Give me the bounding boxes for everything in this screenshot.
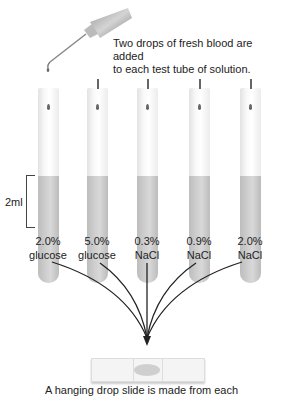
blood-drop-icon (47, 104, 50, 110)
concentration: 0.3% (122, 234, 172, 248)
concentration: 0.9% (174, 234, 224, 248)
hanging-drop-slide (91, 358, 205, 382)
blood-drop-icon (96, 104, 99, 110)
volume-bracket (26, 175, 35, 228)
tube-label-1: 2.0% glucose (23, 234, 73, 262)
tube-label-2: 5.0% glucose (72, 234, 122, 262)
blood-sample-spot (134, 364, 160, 376)
volume-label: 2ml (5, 196, 23, 208)
blood-drop-falling-icon (97, 79, 99, 89)
tube-label-4: 0.9% NaCl (174, 234, 224, 262)
tube-label-5: 2.0% NaCl (225, 234, 275, 262)
concentration: 2.0% (23, 234, 73, 248)
concentration: 2.0% (225, 234, 275, 248)
tube-label-3: 0.3% NaCl (122, 234, 172, 262)
top-caption-line-2: to each test tube of solution. (113, 63, 283, 76)
blood-drop-falling-icon (199, 79, 201, 89)
top-caption-line-1: Two drops of fresh blood are added (113, 37, 283, 63)
blood-drop-icon (198, 104, 201, 110)
bottom-caption: A hanging drop slide is made from each (0, 384, 283, 396)
blood-drop-falling-icon (147, 79, 149, 89)
converging-arrows-icon (0, 260, 283, 350)
blood-drop-icon (146, 104, 149, 110)
blood-drop-icon (249, 104, 252, 110)
concentration: 5.0% (72, 234, 122, 248)
top-caption: Two drops of fresh blood are added to ea… (113, 37, 283, 76)
blood-drop-falling-icon (250, 79, 252, 89)
